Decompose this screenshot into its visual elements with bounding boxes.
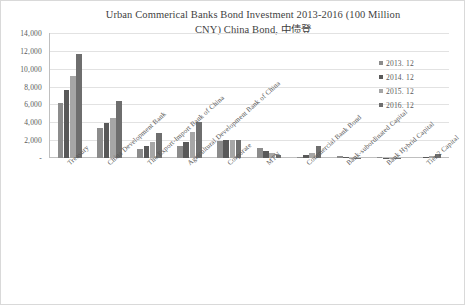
legend-label: 2014. 12 xyxy=(386,73,414,82)
y-axis-tick-label: 4,000 xyxy=(24,118,42,127)
x-axis: TreasuryChina Development BankThe Export… xyxy=(1,159,465,269)
bar xyxy=(183,142,189,158)
bar-chart-container: Urban Commerical Banks Bond Investment 2… xyxy=(0,0,465,305)
bar xyxy=(104,123,110,158)
bar xyxy=(297,157,303,158)
y-axis-tick-label: 12,000 xyxy=(20,46,42,55)
legend-swatch-icon xyxy=(379,103,383,107)
legend-item[interactable]: 2015. 12 xyxy=(379,85,461,97)
legend-item[interactable]: 2013. 12 xyxy=(379,57,461,69)
bar xyxy=(177,146,183,159)
legend-item[interactable]: 2014. 12 xyxy=(379,71,461,83)
legend-swatch-icon xyxy=(379,89,383,93)
y-axis-tick-label: 10,000 xyxy=(20,64,42,73)
bar xyxy=(70,76,76,158)
bar xyxy=(58,103,64,158)
legend-label: 2015. 12 xyxy=(386,87,414,96)
legend-label: 2016. 12 xyxy=(386,101,414,110)
bar xyxy=(64,90,70,158)
bar xyxy=(76,54,82,158)
bar xyxy=(257,148,263,158)
legend-swatch-icon xyxy=(379,75,383,79)
bar xyxy=(144,146,150,158)
y-axis: 14,00012,00010,0008,0006,0004,0002,000- xyxy=(1,33,45,159)
bar xyxy=(137,149,143,158)
legend-label: 2013. 12 xyxy=(386,59,414,68)
chart-legend: 2013. 122014. 122015. 122016. 12 xyxy=(379,57,461,113)
bar xyxy=(97,128,103,158)
bar xyxy=(377,157,383,158)
bar-group xyxy=(90,33,130,158)
y-axis-tick-label: 14,000 xyxy=(20,29,42,38)
y-axis-tick-label: 6,000 xyxy=(24,100,42,109)
bar xyxy=(337,156,343,158)
bar xyxy=(217,141,223,158)
bar-group xyxy=(289,33,329,158)
legend-item[interactable]: 2016. 12 xyxy=(379,99,461,111)
bar xyxy=(223,140,229,158)
y-axis-tick-label: 8,000 xyxy=(24,82,42,91)
legend-swatch-icon xyxy=(379,61,383,65)
y-axis-tick-label: 2,000 xyxy=(24,136,42,145)
bar-group xyxy=(50,33,90,158)
